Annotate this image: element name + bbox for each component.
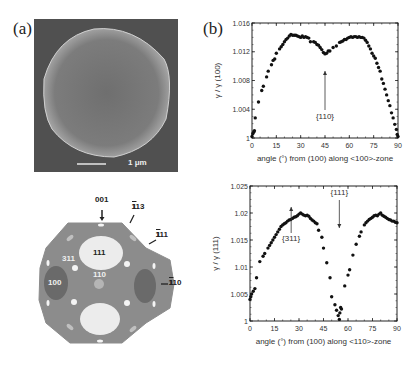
- y-tick-label: 1.005: [230, 291, 248, 298]
- data-point: [388, 104, 391, 107]
- y-axis-label: γ / γ (100): [213, 62, 222, 98]
- y-tick-label: 1.01: [234, 264, 248, 271]
- annotation-label: {311}: [282, 234, 300, 243]
- y-tick-label: 1.008: [232, 77, 250, 84]
- facet-small: [124, 261, 130, 267]
- data-point: [395, 221, 398, 224]
- chart-100-zone-plot: 015304560759011.0041.0081.0121.016angle …: [200, 0, 417, 180]
- sem-micrograph: 1 μm: [34, 19, 178, 172]
- label-113-text: 113: [131, 202, 144, 211]
- facet-small: [97, 340, 103, 343]
- data-point: [320, 236, 323, 239]
- data-point: [338, 318, 341, 321]
- data-point: [385, 93, 388, 96]
- x-tick-label: 30: [295, 325, 303, 332]
- data-point: [325, 261, 328, 264]
- data-point: [396, 135, 399, 138]
- data-point: [273, 57, 276, 60]
- data-point: [346, 273, 349, 276]
- data-point: [309, 40, 312, 43]
- chart-110-zone: 015304560759011.0051.011.0151.021.025ang…: [200, 170, 417, 369]
- data-point: [358, 235, 361, 238]
- x-tick-label: 75: [369, 325, 377, 332]
- data-point: [328, 49, 331, 52]
- y-tick-label: 1.012: [232, 48, 250, 55]
- y-tick-label: 1.025: [230, 183, 248, 190]
- facet-small: [153, 301, 156, 307]
- facet-small: [47, 260, 50, 266]
- label-111-edge-text: 111: [155, 230, 167, 239]
- data-point: [320, 48, 323, 51]
- facet-small: [124, 300, 130, 306]
- facet-110-center: [94, 279, 104, 289]
- data-point: [375, 62, 378, 65]
- y-tick-label: 1.016: [232, 20, 250, 27]
- data-point: [367, 44, 370, 47]
- arrow-113: [130, 215, 134, 223]
- data-point: [322, 246, 325, 249]
- data-point: [250, 135, 253, 138]
- chart-110-zone-plot: 015304560759011.0051.011.0151.021.025ang…: [200, 170, 417, 369]
- label-100: 100: [48, 278, 61, 287]
- arrow-111: [149, 240, 156, 244]
- data-point: [378, 69, 381, 72]
- y-tick-label: 1.015: [230, 237, 248, 244]
- data-point: [254, 116, 257, 119]
- data-point: [263, 252, 266, 255]
- sem-particle: [34, 19, 178, 172]
- data-point: [262, 85, 265, 88]
- data-point: [335, 44, 338, 47]
- facet-small: [47, 300, 50, 306]
- data-point: [369, 47, 372, 50]
- data-point: [380, 77, 383, 80]
- data-point: [255, 276, 258, 279]
- annotation-label: {111}: [331, 188, 349, 197]
- x-tick-label: 90: [394, 142, 402, 149]
- data-point: [383, 87, 386, 90]
- facet-001: [98, 224, 104, 227]
- y-tick-label: 1.004: [232, 106, 250, 113]
- data-point: [377, 66, 380, 69]
- panel-label-a: (a): [13, 19, 32, 39]
- data-point: [307, 36, 310, 39]
- data-point: [387, 99, 390, 102]
- data-point: [359, 230, 362, 233]
- data-point: [281, 43, 284, 46]
- label-111-face: 111: [93, 248, 105, 257]
- data-point: [370, 51, 373, 54]
- label-110-edge-text: 110: [168, 278, 181, 287]
- data-point: [391, 116, 394, 119]
- y-tick-label: 1: [244, 318, 248, 325]
- data-point: [333, 303, 336, 306]
- y-axis-label: γ / γ (111): [211, 236, 220, 271]
- data-point: [395, 128, 398, 131]
- label-111-edge: 1111: [156, 230, 168, 239]
- data-point: [258, 260, 261, 263]
- plot-frame: [250, 186, 397, 321]
- x-tick-label: 0: [248, 325, 252, 332]
- data-point: [390, 111, 393, 114]
- annotation-label: {110}: [316, 112, 334, 121]
- x-tick-label: 75: [370, 142, 378, 149]
- data-point: [328, 276, 331, 279]
- data-point: [382, 82, 385, 85]
- data-point: [335, 309, 338, 312]
- data-point: [374, 57, 377, 60]
- x-tick-label: 30: [297, 142, 305, 149]
- label-110-edge: 1110: [169, 278, 181, 287]
- data-point: [340, 307, 343, 310]
- x-tick-label: 15: [271, 325, 279, 332]
- data-point: [253, 129, 256, 132]
- data-point: [257, 100, 260, 103]
- data-point: [365, 41, 368, 44]
- x-tick-label: 90: [393, 325, 401, 332]
- x-axis-label: angle (°) from (100) along <100>-zone: [257, 154, 394, 163]
- data-point: [354, 243, 357, 246]
- x-tick-label: 45: [321, 142, 329, 149]
- y-tick-label: 1.02: [234, 210, 248, 217]
- y-tick-label: 1: [246, 135, 250, 142]
- facet-100-right: [134, 269, 156, 303]
- data-point: [331, 46, 334, 49]
- facet-311: [72, 265, 78, 271]
- data-point: [393, 123, 396, 126]
